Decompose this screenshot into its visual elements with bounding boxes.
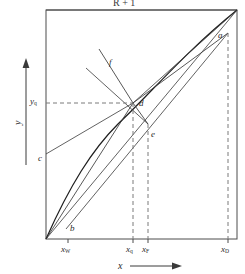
y-axis-arrow (23, 58, 30, 165)
x-tick-sub-xd: D (225, 248, 229, 254)
q-line-cross-stroke (86, 68, 148, 124)
figure-title: R + 1 (113, 0, 135, 8)
y-axis-arrow-head (23, 58, 30, 68)
x-tick-label-xd: xD (221, 245, 229, 255)
y-tick-label-yq: yq (30, 97, 37, 107)
x-tick-sub-xf: F (146, 248, 149, 254)
x-axis-ticks (68, 239, 228, 243)
x-axis-label: x (118, 261, 122, 271)
x-axis-arrow-head (172, 263, 182, 270)
b-to-a-line (66, 33, 228, 229)
point-label-f: f (109, 58, 112, 67)
diagonal-45-line (46, 10, 237, 239)
x-tick-label-xw: xW (61, 245, 70, 255)
point-label-b: b (70, 224, 75, 233)
x-axis-arrow (130, 263, 182, 270)
point-label-d: d (139, 99, 144, 108)
y-tick-sub-yq: q (34, 100, 37, 106)
mccabe-thiele-diagram: R + 1 a b c d e f xW xq xF xD yq y x (0, 0, 245, 274)
diagram-canvas (0, 0, 245, 274)
x-tick-sub-xw: W (65, 248, 70, 254)
dashed-guides (46, 33, 228, 239)
point-label-c: c (38, 154, 42, 163)
x-tick-sub-xq: q (130, 248, 133, 254)
point-label-e: e (151, 130, 155, 139)
rectifying-operating-line (133, 33, 228, 103)
y-axis-label: y (12, 121, 23, 125)
x-tick-label-xq: xq (126, 245, 133, 255)
stripping-operating-line (46, 103, 133, 239)
c-to-corner-line (46, 10, 237, 154)
x-tick-label-xf: xF (142, 245, 149, 255)
point-label-a: a (218, 31, 223, 40)
